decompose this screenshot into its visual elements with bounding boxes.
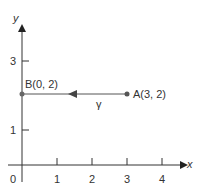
origin-label: 0 (10, 173, 16, 185)
y-tick-label-3: 3 (10, 55, 16, 67)
y-tick-label-1: 1 (10, 124, 16, 136)
point-a-label: A(3, 2) (133, 88, 166, 100)
x-tick-label-4: 4 (159, 173, 165, 185)
x-tick-label-2: 2 (89, 173, 95, 185)
arrowhead-icon (68, 90, 77, 98)
path-label: γ (96, 98, 102, 110)
x-tick-label-1: 1 (54, 173, 60, 185)
point-b-label: B(0, 2) (25, 78, 58, 90)
y-axis-label: y (12, 12, 20, 24)
x-axis-label: x (186, 158, 193, 170)
point-a (125, 92, 130, 97)
diagram-canvas: y x 0 1 2 3 4 1 3 B(0, 2) A(3, 2) γ (0, 0, 200, 191)
point-b (20, 92, 25, 97)
x-tick-label-3: 3 (124, 173, 130, 185)
